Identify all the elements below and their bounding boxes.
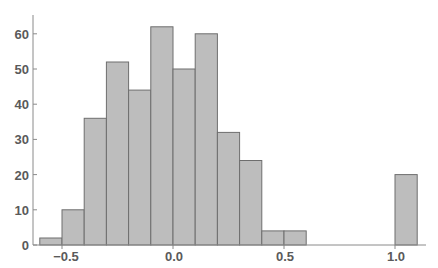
histogram-bar [106, 62, 128, 245]
histogram-bar [217, 132, 239, 245]
y-tick-label: 50 [15, 62, 29, 77]
histogram-bar [62, 210, 84, 245]
histogram-bar [284, 231, 306, 245]
y-axis-ticks: 0102030405060 [15, 27, 37, 253]
histogram-bar [262, 231, 284, 245]
y-tick-label: 20 [15, 168, 29, 183]
histogram-bar [151, 27, 173, 245]
histogram-bar [240, 161, 262, 246]
histogram-bars [40, 27, 417, 245]
y-tick-label: 30 [15, 132, 29, 147]
x-tick-label: 1.0 [387, 249, 405, 264]
x-tick-label: −0.5 [53, 249, 79, 264]
histogram-bar [395, 175, 417, 245]
histogram-bar [40, 238, 62, 245]
y-tick-label: 10 [15, 203, 29, 218]
histogram-bar [195, 34, 217, 245]
histogram-bar [173, 69, 195, 245]
x-axis-ticks: −0.50.00.51.0 [53, 245, 405, 264]
x-tick-label: 0.5 [276, 249, 294, 264]
y-tick-label: 40 [15, 97, 29, 112]
histogram-bar [129, 90, 151, 245]
y-tick-label: 0 [22, 238, 29, 253]
x-tick-label: 0.0 [165, 249, 183, 264]
histogram-chart: 0102030405060 −0.50.00.51.0 [0, 0, 438, 268]
y-tick-label: 60 [15, 27, 29, 42]
histogram-bar [84, 118, 106, 245]
